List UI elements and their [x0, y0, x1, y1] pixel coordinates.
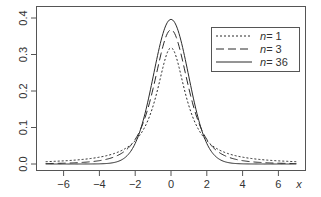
y-tick-label: 0.4 — [17, 10, 29, 25]
x-axis — [64, 171, 279, 176]
y-tick-labels: 0.0 0.1 0.2 0.3 0.4 — [17, 10, 29, 171]
legend-label-n3: n= 3 — [260, 43, 282, 55]
legend-value: = 36 — [266, 56, 288, 68]
legend-value: = 1 — [266, 30, 282, 42]
x-tick-label: −2 — [129, 178, 142, 190]
legend-label-n36: n= 36 — [260, 56, 288, 68]
legend-value: = 3 — [266, 43, 282, 55]
y-tick-label: 0.1 — [17, 120, 29, 135]
x-tick-label: −6 — [57, 178, 70, 190]
x-tick-label: 0 — [168, 178, 174, 190]
chart: 0.0 0.1 0.2 0.3 0.4 −6 −4 −2 0 2 4 6 x n… — [0, 0, 321, 197]
legend-label-n1: n= 1 — [260, 30, 282, 42]
x-tick-label: −4 — [93, 178, 106, 190]
x-tick-labels: −6 −4 −2 0 2 4 6 — [57, 178, 281, 190]
x-tick-label: 4 — [240, 178, 246, 190]
x-axis-label: x — [295, 178, 302, 190]
y-tick-label: 0.2 — [17, 83, 29, 98]
y-tick-label: 0.3 — [17, 47, 29, 62]
x-tick-label: 2 — [204, 178, 210, 190]
x-tick-label: 6 — [275, 178, 281, 190]
legend: n= 1 n= 3 n= 36 — [212, 28, 300, 72]
y-axis — [31, 18, 36, 164]
y-tick-label: 0.0 — [17, 156, 29, 171]
